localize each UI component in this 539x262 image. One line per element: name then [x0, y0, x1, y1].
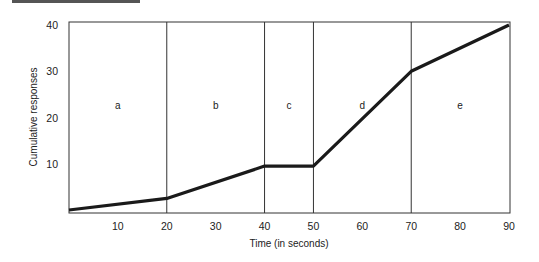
chart: abcde 102030405060708090 10203040 Time (…: [0, 0, 539, 262]
x-tick-90: 90: [503, 220, 515, 232]
y-tick-labels: 10203040: [46, 19, 58, 170]
segment-label-a: a: [115, 100, 121, 111]
x-tick-10: 10: [112, 220, 124, 232]
x-tick-50: 50: [308, 220, 320, 232]
x-tick-60: 60: [356, 220, 368, 232]
plot-frame: [69, 22, 510, 213]
x-tick-80: 80: [454, 220, 466, 232]
segment-label-e: e: [457, 100, 463, 111]
x-axis-label: Time (in seconds): [249, 238, 328, 249]
y-axis-label: Cumulative responses: [28, 68, 39, 167]
segment-label-b: b: [213, 100, 219, 111]
x-tick-30: 30: [210, 220, 222, 232]
y-tick-10: 10: [46, 158, 58, 170]
x-tick-40: 40: [259, 220, 271, 232]
y-tick-30: 30: [46, 65, 58, 77]
y-tick-20: 20: [46, 112, 58, 124]
x-tick-labels: 102030405060708090: [112, 220, 515, 232]
cumulative-response-line: [69, 25, 509, 210]
segment-label-d: d: [360, 100, 366, 111]
x-tick-20: 20: [161, 220, 173, 232]
y-tick-40: 40: [46, 19, 58, 31]
segment-label-c: c: [287, 100, 292, 111]
segment-dividers: [167, 22, 411, 213]
x-tick-70: 70: [405, 220, 417, 232]
